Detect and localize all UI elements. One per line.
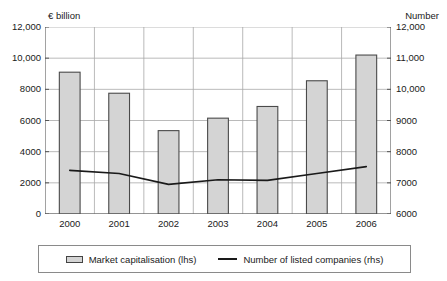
- right-axis-tick-label: 9000: [396, 116, 417, 126]
- right-axis-tick-label: 8000: [396, 147, 417, 157]
- right-axis-tick-label: 10,000: [396, 85, 425, 95]
- x-axis-tick-labels: 2000200120022003200420052006: [45, 216, 391, 232]
- legend-item-label: Market capitalisation (lhs): [89, 254, 197, 265]
- line-swatch-icon: [218, 258, 237, 260]
- left-axis-tick-label: 2000: [20, 178, 41, 188]
- right-axis-tick-label: 12,000: [396, 22, 425, 32]
- right-axis-tick-label: 6000: [396, 209, 417, 219]
- right-axis-tick-label: 11,000: [396, 53, 424, 63]
- bar-2003: [208, 118, 229, 214]
- x-axis-tick-label-2003: 2003: [207, 218, 228, 229]
- right-axis-tick-label: 7000: [396, 178, 417, 188]
- legend-item-label: Number of listed companies (rhs): [243, 254, 383, 265]
- bar-2000: [59, 72, 80, 214]
- bar-2002: [158, 131, 179, 214]
- x-axis-tick-label-2005: 2005: [306, 218, 327, 229]
- left-axis-tick-label: 10,000: [12, 53, 41, 63]
- bar-2004: [257, 106, 278, 214]
- plot-svg: [45, 27, 391, 214]
- x-axis-tick-label-2004: 2004: [257, 218, 278, 229]
- bar-swatch-icon: [66, 256, 83, 263]
- x-axis-tick-label-2006: 2006: [356, 218, 377, 229]
- x-axis-tick-label-2000: 2000: [59, 218, 80, 229]
- x-axis-tick-label-2002: 2002: [158, 218, 179, 229]
- left-axis-unit-label: € billion: [48, 10, 80, 21]
- bar-2005: [306, 81, 327, 214]
- right-axis-tick-labels: 600070008000900010,00011,00012,000: [396, 27, 444, 214]
- plot-area: [45, 27, 391, 214]
- left-axis-tick-label: 0: [36, 209, 41, 219]
- left-axis-tick-labels: 0200040006000800010,00012,000: [0, 27, 41, 214]
- left-axis-tick-label: 12,000: [12, 22, 41, 32]
- x-axis-tick-label-2001: 2001: [109, 218, 130, 229]
- legend-item-market-capitalisation: Market capitalisation (lhs): [66, 254, 197, 265]
- legend-item-listed-companies: Number of listed companies (rhs): [218, 254, 383, 265]
- right-axis-unit-label: Number: [405, 10, 439, 21]
- bar-2001: [109, 93, 130, 214]
- chart-legend: Market capitalisation (lhs) Number of li…: [38, 245, 411, 273]
- bar-2006: [356, 55, 377, 214]
- left-axis-tick-label: 4000: [20, 147, 41, 157]
- left-axis-tick-label: 8000: [20, 85, 41, 95]
- chart-figure: € billion Number 0200040006000800010,000…: [0, 0, 447, 281]
- left-axis-tick-label: 6000: [20, 116, 41, 126]
